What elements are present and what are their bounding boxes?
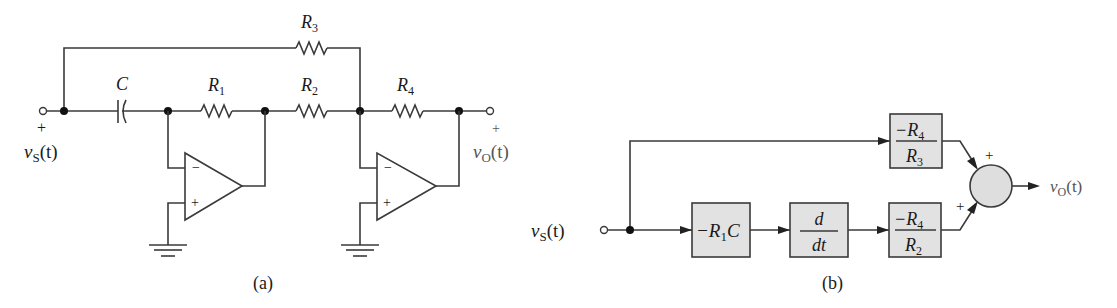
label-r1: R1: [207, 75, 225, 98]
label-r4: R4: [396, 75, 414, 98]
opamp1-plus: +: [191, 195, 199, 210]
input-plus-sign: +: [37, 119, 46, 136]
opamp1-minus: −: [192, 160, 200, 175]
summer-plus-top: +: [985, 147, 993, 163]
summer-plus-bottom: +: [956, 198, 964, 214]
block-r1c: −R1C: [692, 203, 750, 257]
block-input-terminal: [601, 227, 608, 234]
block-output-label: vO(t): [1050, 177, 1082, 199]
figure-a-schematic: − + − + C R1 R2 R3 R4 + vS(t) + vO(t) (a…: [24, 12, 509, 294]
resistor-r1: [201, 105, 232, 117]
svg-text:−R1C: −R1C: [696, 220, 740, 244]
label-r3: R3: [300, 12, 318, 35]
block-gain-r4-r3: −R4 R3: [890, 114, 942, 169]
label-c: C: [116, 74, 129, 94]
figure-b-block-diagram: vS(t) −R1C d dt −R4 R2: [531, 114, 1082, 294]
svg-text:d: d: [815, 209, 825, 229]
resistor-r3: [296, 42, 327, 54]
caption-a: (a): [253, 273, 273, 294]
block-derivative: d dt: [790, 203, 848, 257]
caption-b: (b): [822, 273, 843, 294]
resistor-r2: [296, 105, 327, 117]
svg-text:dt: dt: [812, 235, 827, 255]
output-plus-sign: +: [492, 121, 500, 136]
input-terminal: [40, 108, 47, 115]
output-voltage-label: vO(t): [473, 141, 509, 165]
opamp2-plus: +: [383, 195, 391, 210]
output-terminal: [487, 108, 494, 115]
opamp2-minus: −: [384, 160, 392, 175]
circuit-figure: − + − + C R1 R2 R3 R4 + vS(t) + vO(t) (a…: [0, 0, 1117, 308]
label-r2: R2: [300, 75, 318, 98]
resistor-r4: [392, 105, 423, 117]
input-voltage-label: vS(t): [24, 141, 58, 165]
block-input-label: vS(t): [531, 220, 565, 244]
op-amp-1: [149, 111, 265, 256]
block-gain-r4-r2: −R4 R2: [889, 203, 941, 258]
summing-junction: [970, 165, 1012, 207]
op-amp-2: [341, 111, 459, 256]
